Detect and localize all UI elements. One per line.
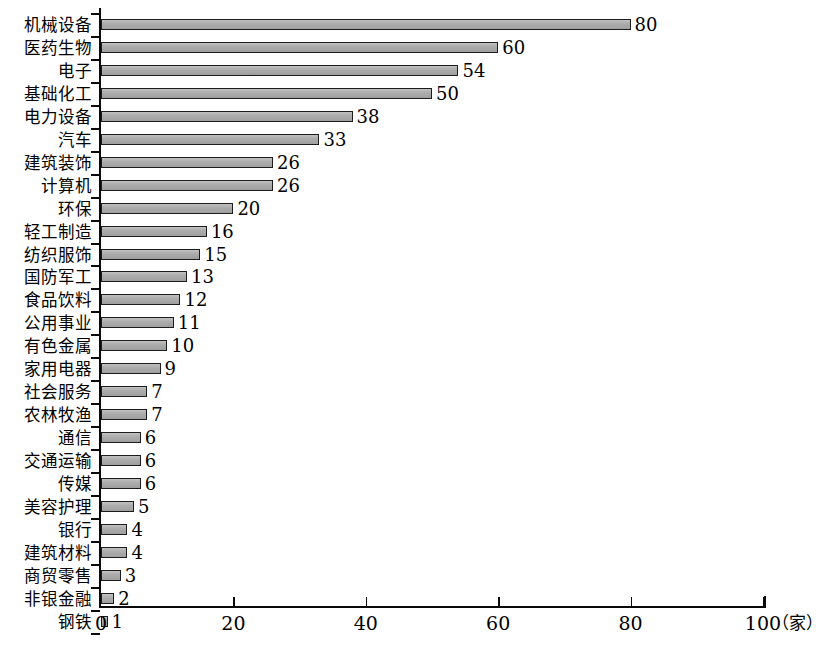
x-axis-tick [233,597,235,607]
bar [101,111,353,122]
bar-value-label: 6 [145,431,156,444]
y-axis-tick [91,220,100,222]
y-axis-tick [91,13,100,15]
bar-value-label: 7 [151,408,162,421]
bar-value-label: 5 [138,500,149,513]
bar [101,409,147,420]
y-axis-tick [91,495,100,497]
y-axis-tick [91,311,100,313]
bar [101,249,200,260]
y-axis-tick [91,59,100,61]
y-axis-tick [91,357,100,359]
bar-value-label: 9 [165,362,176,375]
bar [101,570,121,581]
y-axis-tick [91,197,100,199]
bar [101,478,141,489]
bar-value-label: 12 [184,293,207,306]
y-axis-tick [91,151,100,153]
x-axis-tick-label: 60 [468,612,528,634]
y-axis-tick [91,472,100,474]
bar [101,547,127,558]
bar [101,386,147,397]
y-axis-tick [91,265,100,267]
bar [101,134,319,145]
y-axis-tick [91,243,100,245]
y-axis-tick [91,426,100,428]
y-axis-tick [91,403,100,405]
y-axis-tick [91,174,100,176]
y-axis-tick [91,334,100,336]
bar-value-label: 11 [178,316,201,329]
bar-value-label: 7 [151,385,162,398]
bar [101,19,631,30]
y-axis-tick [91,541,100,543]
y-axis-tick [91,564,100,566]
bar-value-label: 33 [323,133,346,146]
bar-value-label: 38 [357,110,380,123]
y-axis-tick [91,288,100,290]
bar [101,363,161,374]
bar-value-label: 6 [145,477,156,490]
bar-value-label: 10 [171,339,194,352]
x-axis-tick [763,597,765,607]
bar [101,203,233,214]
horizontal-bar-chart: 机械设备医药生物电子基础化工电力设备汽车建筑装饰计算机环保轻工制造纺织服饰国防军… [0,0,840,647]
y-axis-tick [91,380,100,382]
bar-value-label: 20 [237,202,260,215]
bar-value-label: 26 [277,179,300,192]
x-axis-tick-label: 80 [601,612,661,634]
bar [101,226,207,237]
bar [101,340,167,351]
y-axis-tick [91,82,100,84]
bar [101,524,127,535]
bar-value-label: 4 [131,546,142,559]
bar [101,455,141,466]
bar-value-label: 26 [277,156,300,169]
bar-value-label: 6 [145,454,156,467]
bar [101,42,498,53]
bars-layer: 8060545038332626201615131211109776665443… [0,0,840,610]
y-axis-tick [91,128,100,130]
bar-value-label: 3 [125,569,136,582]
x-axis-tick [498,597,500,607]
bar [101,157,273,168]
bar [101,271,187,282]
y-axis-tick [91,36,100,38]
bar-value-label: 15 [204,248,227,261]
bar [101,180,273,191]
x-axis-line [99,606,766,608]
bar [101,593,114,604]
bar [101,294,180,305]
bar-value-label: 2 [118,592,129,605]
bar-value-label: 54 [462,64,485,77]
bar-value-label: 60 [502,41,525,54]
y-axis-tick [91,587,100,589]
y-axis-tick [91,518,100,520]
bar [101,432,141,443]
x-axis-tick [631,597,633,607]
x-axis-tick-label: 20 [203,612,263,634]
bar [101,501,134,512]
bar-value-label: 80 [635,18,658,31]
bar [101,65,458,76]
y-axis-tick [91,105,100,107]
y-axis-tick [91,449,100,451]
bar [101,317,174,328]
bar-value-label: 13 [191,270,214,283]
x-axis-tick-label: 0 [71,612,131,634]
x-axis-tick [366,597,368,607]
x-axis-tick-label: 40 [336,612,396,634]
bar [101,88,432,99]
bar-value-label: 4 [131,523,142,536]
bar-value-label: 16 [211,225,234,238]
x-axis-unit-label: （家） [772,612,823,634]
bar-value-label: 50 [436,87,459,100]
